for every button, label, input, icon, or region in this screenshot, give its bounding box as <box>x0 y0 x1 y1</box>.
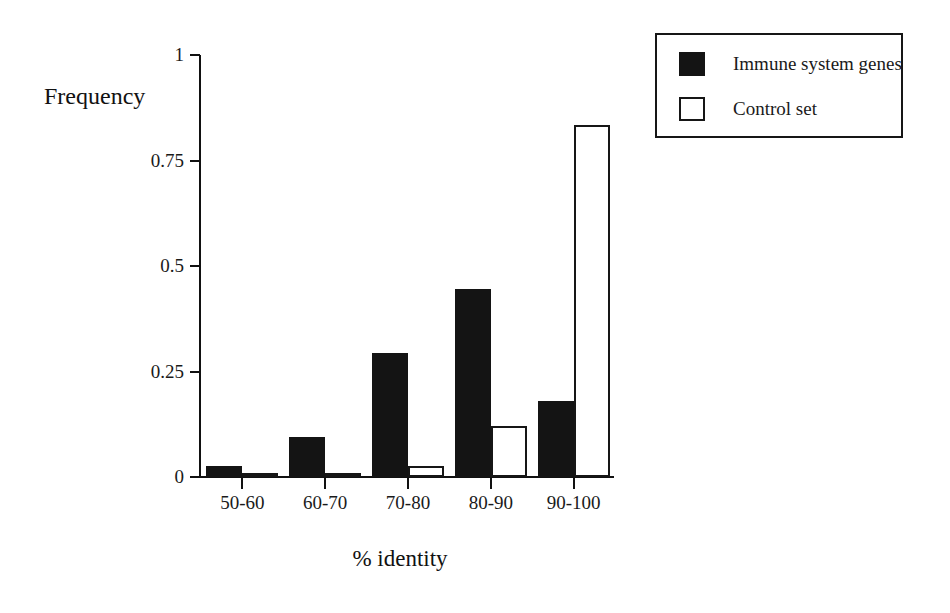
bar-70-80-immune <box>372 353 408 477</box>
legend-label: Control set <box>733 98 817 120</box>
bar-60-70-control <box>325 473 361 477</box>
legend-box: Immune system genes Control set <box>655 33 903 138</box>
x-tick-mark <box>490 477 492 489</box>
y-tick-label: 0.5 <box>100 256 184 275</box>
y-axis-title: Frequency <box>44 82 145 110</box>
bar-50-60-immune <box>206 466 242 477</box>
x-tick-mark <box>573 477 575 489</box>
bar-80-90-immune <box>455 289 491 477</box>
x-tick-label: 90-100 <box>514 492 634 514</box>
bar-80-90-control <box>491 426 527 477</box>
bar-50-60-control <box>242 473 278 477</box>
legend-swatch-open-square-outline <box>679 97 705 121</box>
legend-item-immune-system-genes: Immune system genes <box>679 52 902 76</box>
legend-label: Immune system genes <box>733 53 902 75</box>
x-tick-mark <box>407 477 409 489</box>
bar-90-100-immune <box>538 401 574 477</box>
x-tick-mark <box>324 477 326 489</box>
y-tick-label: 0 <box>100 467 184 486</box>
x-tick-mark <box>241 477 243 489</box>
x-axis-title: % identity <box>0 545 800 572</box>
bar-60-70-immune <box>289 437 325 477</box>
legend-swatch-filled-square-dark <box>679 52 705 76</box>
plot-area <box>199 55 613 477</box>
bar-chart-figure: Frequency 00.250.50.751 50-6060-7070-808… <box>0 0 950 613</box>
bar-70-80-control <box>408 466 444 477</box>
y-tick-label: 0.75 <box>100 151 184 170</box>
y-tick-label: 0.25 <box>100 362 184 381</box>
bar-90-100-control <box>574 125 610 477</box>
legend-item-control-set: Control set <box>679 97 817 121</box>
y-tick-label: 1 <box>100 45 184 64</box>
